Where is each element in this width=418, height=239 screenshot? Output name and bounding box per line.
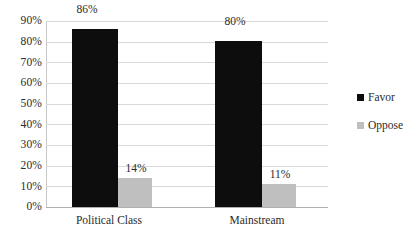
bar-value-political-class-favor: 86% (57, 3, 117, 15)
bar-political-class-oppose (118, 178, 152, 207)
y-tick-label: 70% (2, 57, 42, 69)
category-label-political-class: Political Class (54, 214, 164, 227)
legend-swatch-favor-icon (357, 94, 364, 101)
y-tick-label: 10% (2, 181, 42, 193)
category-label-mainstream: Mainstream (202, 214, 312, 227)
legend-item-favor: Favor (357, 90, 418, 104)
bar-value-mainstream-oppose: 11% (263, 168, 297, 180)
gridline-90 (46, 21, 328, 22)
legend: Favor Oppose (357, 90, 418, 146)
y-tick-label: 0% (2, 201, 42, 213)
bar-mainstream-oppose (262, 184, 296, 207)
y-tick-label: 20% (2, 160, 42, 172)
legend-item-oppose: Oppose (357, 118, 418, 132)
gridline-baseline-0 (46, 207, 328, 208)
bar-political-class-favor (72, 29, 118, 207)
bar-value-political-class-oppose: 14% (119, 162, 153, 174)
y-tick-label: 90% (2, 15, 42, 27)
bar-value-mainstream-favor: 80% (205, 15, 265, 27)
bar-chart: 90% 80% 70% 60% 50% 40% 30% 20% 10% 0% 8… (0, 0, 418, 239)
legend-swatch-oppose-icon (357, 122, 364, 129)
legend-label-oppose: Oppose (368, 119, 403, 131)
y-tick-label: 50% (2, 98, 42, 110)
y-tick-label: 40% (2, 119, 42, 131)
y-axis-labels: 90% 80% 70% 60% 50% 40% 30% 20% 10% 0% (0, 0, 42, 239)
bar-mainstream-favor (215, 41, 262, 207)
legend-label-favor: Favor (368, 91, 395, 103)
y-tick-label: 30% (2, 139, 42, 151)
y-tick-label: 80% (2, 36, 42, 48)
y-tick-label: 60% (2, 77, 42, 89)
